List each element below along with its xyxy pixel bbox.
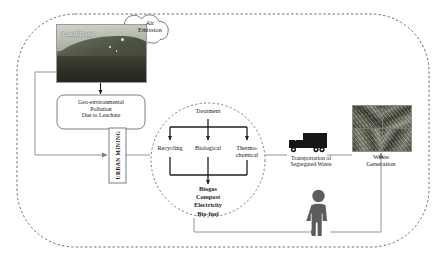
waste-generation-label: Waste Generation: [354, 153, 408, 168]
treatment-outputs-list: Biogas Compost Electricity Bio-fuel: [178, 185, 238, 218]
diagram-canvas: Air Emission Landfill site Geo-environme…: [0, 0, 445, 260]
output-biogas: Biogas: [178, 185, 238, 193]
pollution-line2: Pollution: [58, 106, 144, 113]
treatment-root-label: Treatment: [183, 108, 233, 115]
urban-mining-label: URBAN MINING: [115, 124, 121, 186]
pollution-line1: Geo-environmental: [58, 99, 144, 106]
pollution-line3: Due to Leachate: [58, 112, 144, 119]
output-biofuel: Bio-fuel: [178, 210, 238, 218]
waste-generation-line1: Waste: [354, 153, 408, 160]
air-emission-label: Air Emission: [124, 20, 176, 34]
thermochemical-line2: chemical: [226, 152, 268, 159]
output-electricity: Electricity: [178, 201, 238, 209]
transport-line2: Segregated Waste: [280, 161, 342, 167]
citizen-figure: [306, 190, 327, 236]
branch-label-thermochemical: Thermo- chemical: [226, 145, 268, 159]
arrow-bottom-return-left: [194, 218, 316, 232]
waste-generation-photo: [352, 105, 412, 152]
truck-icon: [289, 133, 327, 152]
transport-label: Transportation of Segregated Waste: [280, 155, 342, 168]
branch-label-biological: Biological: [185, 145, 231, 152]
output-compost: Compost: [178, 193, 238, 201]
air-emission-line2: Emission: [124, 27, 176, 34]
landfill-site-label: Landfill site: [62, 30, 122, 37]
pollution-box-label: Geo-environmental Pollution Due to Leach…: [58, 99, 144, 119]
waste-generation-line2: Generation: [354, 160, 408, 167]
